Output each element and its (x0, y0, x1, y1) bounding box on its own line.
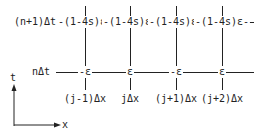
axes-arrows-icon (0, 0, 258, 135)
axis-label-x: x (62, 119, 68, 131)
axis-label-t: t (10, 72, 16, 84)
finite-difference-grid-diagram: (n+1)Δt nΔt -(1-4s)ε- -(1-4s)ε- -(1-4s)ε… (0, 0, 258, 135)
